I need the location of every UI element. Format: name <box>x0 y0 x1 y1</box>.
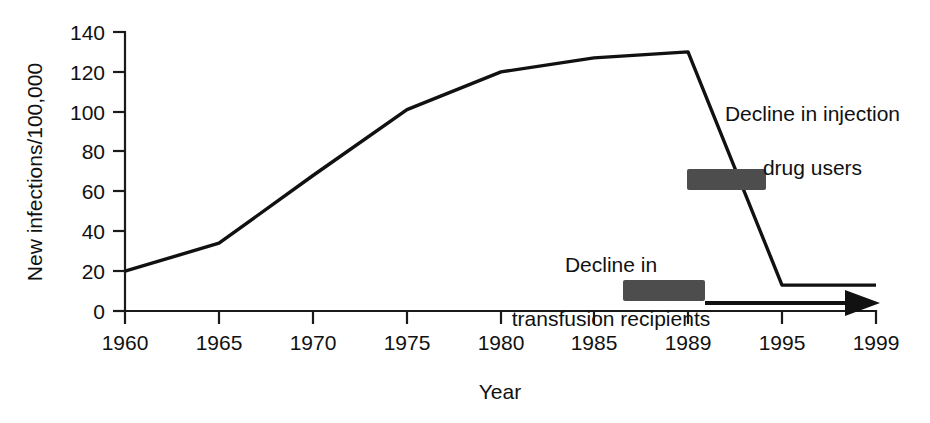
x-axis-title: Year <box>479 380 521 403</box>
line-chart-canvas: 140 120 100 80 60 40 20 0 New infections… <box>0 0 930 423</box>
annotation-injection-line2: drug users <box>700 155 925 182</box>
y-axis-title: New infections/100,000 <box>23 63 46 281</box>
y-tick-label-140: 140 <box>70 21 105 44</box>
annotation-injection-line1: Decline in injection <box>700 101 925 128</box>
x-tick-label-1975: 1975 <box>384 331 431 354</box>
x-tick-label-1995: 1995 <box>759 331 806 354</box>
annotation-transfusion-line1: Decline in <box>500 252 722 279</box>
x-tick-label-1965: 1965 <box>196 331 243 354</box>
y-tick-label-120: 120 <box>70 61 105 84</box>
x-tick-label-1960: 1960 <box>102 331 149 354</box>
annotation-label-injection-drug-users: Decline in injection drug users <box>700 74 925 208</box>
x-tick-label-1999: 1999 <box>853 331 900 354</box>
y-tick-label-60: 60 <box>82 180 105 203</box>
chart-figure: 140 120 100 80 60 40 20 0 New infections… <box>0 0 930 423</box>
x-tick-label-1970: 1970 <box>290 331 337 354</box>
annotation-transfusion-line2: transfusion recipients <box>500 306 722 333</box>
y-tick-label-20: 20 <box>82 260 105 283</box>
y-tick-label-40: 40 <box>82 220 105 243</box>
y-tick-label-100: 100 <box>70 101 105 124</box>
y-tick-label-80: 80 <box>82 140 105 163</box>
y-axis-tick-labels: 140 120 100 80 60 40 20 0 <box>70 21 105 323</box>
annotation-label-transfusion-recipients: Decline in transfusion recipients <box>500 225 722 359</box>
y-tick-label-0: 0 <box>93 300 105 323</box>
y-axis-ticks <box>113 32 125 311</box>
